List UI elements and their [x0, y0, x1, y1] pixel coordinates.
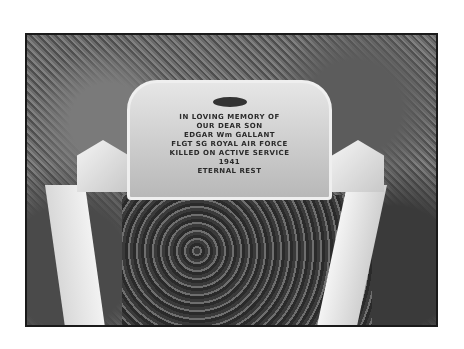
inscription-line: KILLED ON ACTIVE SERVICE — [170, 149, 290, 158]
inscription-line: IN LOVING MEMORY OF — [179, 113, 279, 122]
inscription-line: 1941 — [219, 158, 240, 167]
wings-emblem-icon — [213, 97, 247, 107]
inscription-line: EDGAR Wm GALLANT — [184, 131, 275, 140]
inscription-line: OUR DEAR SON — [196, 122, 262, 131]
left-kerb — [45, 185, 106, 327]
headstone: IN LOVING MEMORY OF OUR DEAR SON EDGAR W… — [127, 80, 332, 200]
inscription-line: FLGT SG ROYAL AIR FORCE — [171, 140, 288, 149]
right-corner-post — [332, 140, 384, 192]
grave-photo: IN LOVING MEMORY OF OUR DEAR SON EDGAR W… — [25, 33, 438, 327]
inscription-line: ETERNAL REST — [198, 167, 262, 176]
left-corner-post — [77, 140, 129, 192]
